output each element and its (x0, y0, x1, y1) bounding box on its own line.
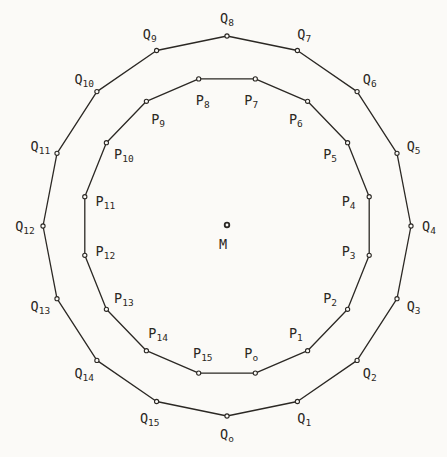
vertex-Q3-label: Q3 (407, 298, 421, 316)
vertex-P8-subscript: 8 (204, 98, 210, 109)
vertex-P12-label: P12 (96, 243, 116, 261)
vertex-P1-dot (306, 349, 310, 353)
vertex-Q10-subscript: 10 (83, 77, 95, 88)
vertex-P12-dot (83, 253, 87, 257)
vertex-P9-label: P9 (151, 111, 165, 129)
vertex-P13-subscript: 13 (122, 296, 133, 307)
vertex-Q12-dot (41, 224, 45, 228)
vertex-P14-subscript: 14 (156, 332, 168, 343)
vertex-Q8-subscript: 8 (228, 17, 234, 28)
vertex-P14-dot (144, 349, 148, 353)
vertex-P5-dot (346, 141, 350, 145)
vertex-P8-label: P8 (196, 92, 210, 110)
vertex-P5-label: P5 (323, 146, 337, 164)
vertex-P15-dot (197, 371, 201, 375)
vertex-P2-subscript: 2 (331, 296, 337, 307)
vertex-P13-label: P13 (114, 290, 134, 308)
vertex-Qo-label: Qo (220, 426, 234, 444)
vertex-P7-subscript: 7 (252, 98, 258, 109)
vertex-P7-label: P7 (244, 92, 258, 110)
vertex-P12-subscript: 12 (104, 250, 115, 261)
vertex-Q6-dot (355, 90, 359, 94)
vertex-P14-label: P14 (148, 325, 168, 343)
vertex-P15-subscript: 15 (201, 351, 212, 362)
vertex-Q2-subscript: 2 (371, 372, 377, 383)
vertex-P11-dot (83, 195, 87, 199)
vertex-Q14-label: Q14 (74, 365, 94, 383)
vertex-Q1-subscript: 1 (306, 417, 312, 428)
vertex-Q15-dot (155, 399, 159, 403)
vertex-Po-dot (253, 371, 257, 375)
diagram-svg: QoQ1Q2Q3Q4Q5Q6Q7Q8Q9Q10Q11Q12Q13Q14Q15Po… (0, 0, 447, 457)
center-point-label: M (219, 236, 227, 252)
vertex-Q10-dot (95, 90, 99, 94)
vertex-Q9-dot (155, 48, 159, 52)
vertex-Q14-dot (95, 358, 99, 362)
vertex-Q15-label: Q15 (140, 410, 160, 428)
vertex-P9-subscript: 9 (159, 117, 165, 128)
vertex-Q13-label: Q13 (31, 298, 51, 316)
vertex-Q11-dot (55, 151, 59, 155)
vertex-Q14-subscript: 14 (83, 372, 95, 383)
vertex-Q7-dot (295, 48, 299, 52)
vertex-Q4-subscript: 4 (430, 225, 436, 236)
vertex-Q6-label: Q6 (363, 71, 377, 89)
vertex-Q3-dot (395, 297, 399, 301)
vertex-P8-dot (197, 77, 201, 81)
vertex-Q15-subscript: 15 (148, 417, 159, 428)
vertex-Q2-label: Q2 (363, 365, 377, 383)
vertex-Q3-subscript: 3 (415, 304, 421, 315)
center-point-dot (225, 223, 230, 228)
vertex-Q13-subscript: 13 (39, 304, 50, 315)
vertex-P3-dot (367, 253, 371, 257)
vertex-Q1-label: Q1 (297, 410, 311, 428)
vertex-Q8-label: Q8 (220, 10, 234, 28)
vertex-P2-dot (346, 307, 350, 311)
vertex-P4-label: P4 (342, 193, 356, 211)
vertex-P3-label: P3 (342, 243, 356, 261)
vertex-P10-dot (104, 141, 108, 145)
vertex-Qo-dot (225, 414, 229, 418)
vertex-Q5-dot (395, 151, 399, 155)
vertex-P2-label: P2 (323, 290, 337, 308)
vertex-Q9-label: Q9 (143, 26, 157, 44)
vertex-P11-label: P11 (96, 193, 116, 211)
vertex-Po-subscript: o (252, 351, 258, 362)
vertex-P4-subscript: 4 (350, 199, 356, 210)
vertex-P4-dot (367, 195, 371, 199)
vertex-P6-dot (306, 99, 310, 103)
vertex-P7-dot (253, 77, 257, 81)
vertex-P10-subscript: 10 (122, 153, 134, 164)
vertex-Q10-label: Q10 (74, 71, 94, 89)
vertex-Q12-label: Q12 (15, 218, 35, 236)
vertex-Q1-dot (295, 399, 299, 403)
vertex-P1-subscript: 1 (297, 332, 303, 343)
vertex-P15-label: P15 (193, 345, 213, 363)
vertex-Q8-dot (225, 34, 229, 38)
vertex-Q6-subscript: 6 (371, 77, 377, 88)
vertex-Po-label: Po (244, 345, 258, 363)
vertex-P5-subscript: 5 (331, 153, 337, 164)
vertex-P3-subscript: 3 (350, 250, 356, 261)
vertex-Q9-subscript: 9 (151, 32, 157, 43)
vertex-P6-subscript: 6 (297, 117, 303, 128)
vertex-P9-dot (144, 99, 148, 103)
vertex-P1-label: P1 (289, 325, 303, 343)
vertex-Q2-dot (355, 358, 359, 362)
vertex-Q4-dot (409, 224, 413, 228)
vertex-P6-label: P6 (289, 111, 303, 129)
vertex-Q7-label: Q7 (297, 26, 311, 44)
vertex-Q5-subscript: 5 (415, 145, 421, 156)
vertex-P10-label: P10 (114, 146, 134, 164)
vertex-Q11-subscript: 11 (39, 145, 51, 156)
vertex-Q12-subscript: 12 (23, 225, 34, 236)
vertex-Q5-label: Q5 (407, 138, 421, 156)
vertex-Q7-subscript: 7 (306, 32, 312, 43)
vertex-Q11-label: Q11 (31, 138, 51, 156)
vertex-P13-dot (104, 307, 108, 311)
figure-canvas: QoQ1Q2Q3Q4Q5Q6Q7Q8Q9Q10Q11Q12Q13Q14Q15Po… (0, 0, 447, 457)
vertex-Qo-subscript: o (228, 433, 234, 444)
vertex-Q13-dot (55, 297, 59, 301)
vertex-Q4-label: Q4 (422, 218, 436, 236)
vertex-P11-subscript: 11 (104, 199, 116, 210)
